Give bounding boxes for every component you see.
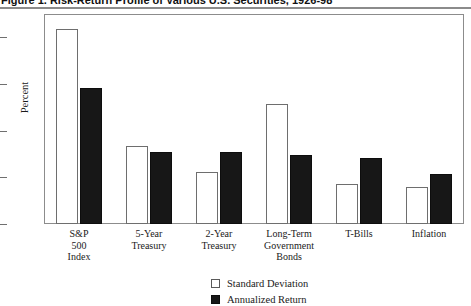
bar-standard-deviation (56, 29, 78, 224)
chart-legend: Standard Deviation Annualized Return (211, 276, 391, 306)
bar-standard-deviation (126, 146, 148, 224)
x-axis-label-line: S&P (44, 228, 114, 240)
y-tick-mark (0, 177, 7, 178)
x-axis-category-labels: S&P500Index5-YearTreasury2-YearTreasuryL… (44, 228, 464, 274)
figure-title-clip: Figure 1. Risk-Return Profile of Various… (0, 0, 471, 7)
x-axis-label-line: Inflation (394, 228, 464, 240)
x-axis-label: 2-YearTreasury (184, 228, 254, 251)
x-axis-label-line: T-Bills (324, 228, 394, 240)
legend-item-standard-deviation: Standard Deviation (211, 276, 391, 290)
bar-standard-deviation (266, 104, 288, 224)
bar-annualized-return (220, 152, 242, 224)
x-axis-label-line: Bonds (254, 251, 324, 263)
bar-standard-deviation (406, 187, 428, 224)
figure-title: Figure 1. Risk-Return Profile of Various… (0, 0, 471, 7)
bar-standard-deviation (336, 184, 358, 224)
y-tick-mark (0, 131, 7, 132)
bar-annualized-return (360, 158, 382, 225)
x-axis-label: S&P500Index (44, 228, 114, 263)
legend-item-annualized-return: Annualized Return (211, 292, 391, 306)
y-axis-title: Percent (19, 70, 30, 126)
x-axis-label: 5-YearTreasury (114, 228, 184, 251)
y-axis: Percent 048121618 (0, 0, 44, 240)
x-axis-label-line: Long-Term (254, 228, 324, 240)
legend-label-annualized-return: Annualized Return (227, 293, 307, 306)
bar-standard-deviation (196, 172, 218, 225)
x-axis-label-line: Treasury (114, 240, 184, 252)
x-axis-label-line: 5-Year (114, 228, 184, 240)
bar-annualized-return (430, 174, 452, 224)
bar-annualized-return (290, 155, 312, 224)
x-axis-label-line: 2-Year (184, 228, 254, 240)
x-axis-label: Inflation (394, 228, 464, 240)
x-axis-label: T-Bills (324, 228, 394, 240)
x-axis-label-line: 500 (44, 240, 114, 252)
bar-annualized-return (80, 88, 102, 225)
black-square-icon (211, 295, 220, 304)
legend-label-standard-deviation: Standard Deviation (227, 277, 308, 290)
figure-root: Figure 1. Risk-Return Profile of Various… (0, 0, 471, 306)
y-tick-mark (0, 224, 7, 225)
x-axis-label-line: Treasury (184, 240, 254, 252)
bar-annualized-return (150, 152, 172, 224)
bar-series-layer (44, 14, 464, 224)
x-axis-label-line: Government (254, 240, 324, 252)
y-tick-mark (0, 84, 7, 85)
white-square-icon (211, 279, 220, 288)
x-axis-label: Long-TermGovernmentBonds (254, 228, 324, 263)
y-tick-mark (0, 37, 7, 38)
title-rule-divider (0, 7, 471, 9)
x-axis-label-line: Index (44, 251, 114, 263)
y-tick-mark (0, 14, 7, 15)
